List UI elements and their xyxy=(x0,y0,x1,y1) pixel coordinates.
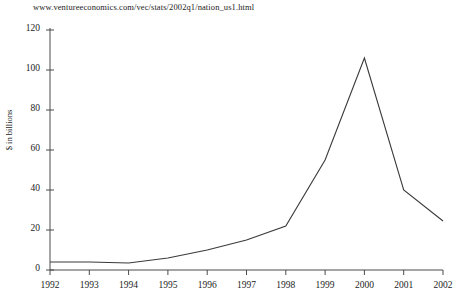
plot-svg xyxy=(0,0,461,301)
line-chart: $ in billions 020406080100120 1992199319… xyxy=(0,0,461,301)
chart-page: www.ventureeconomics.com/vec/stats/2002q… xyxy=(0,0,461,301)
axes xyxy=(50,28,443,270)
axis-ticks xyxy=(46,30,443,275)
data-series-line xyxy=(50,58,443,263)
